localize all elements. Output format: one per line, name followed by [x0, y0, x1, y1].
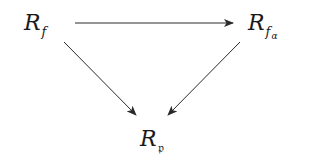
arrow-rfa-to-rp	[168, 42, 240, 115]
node-subscript: f	[42, 24, 47, 39]
node-base: R	[24, 10, 41, 35]
node-subscript: f	[266, 24, 271, 39]
node-subscript: 𝔭	[158, 140, 164, 155]
node-base: R	[140, 126, 157, 151]
node-r-p: R𝔭	[140, 128, 164, 150]
arrow-rf-to-rp	[64, 42, 136, 115]
node-r-f: Rf	[24, 12, 46, 34]
node-base: R	[248, 10, 265, 35]
node-r-f-alpha: Rfα	[248, 12, 277, 34]
node-sub-subscript: α	[271, 31, 277, 41]
